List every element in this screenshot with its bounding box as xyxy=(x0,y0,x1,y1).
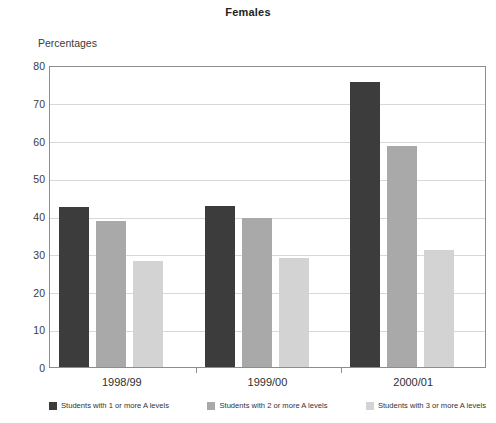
y-axis-tick-labels: 01020304050607080 xyxy=(0,66,45,368)
legend-item[interactable]: Students with 2 or more A levels xyxy=(207,401,327,410)
y-axis-tick-label: 20 xyxy=(3,287,45,299)
legend-label: Students with 3 or more A levels xyxy=(378,401,486,410)
gridline xyxy=(50,142,485,143)
legend-swatch-icon xyxy=(366,402,374,410)
y-axis-tick-label: 40 xyxy=(3,211,45,223)
bar xyxy=(59,207,89,367)
legend-item[interactable]: Students with 3 or more A levels xyxy=(366,401,486,410)
chart-legend: Students with 1 or more A levelsStudents… xyxy=(49,401,486,410)
bar xyxy=(205,206,235,367)
chart-container: Females Percentages 01020304050607080 19… xyxy=(0,0,496,423)
bar xyxy=(279,258,309,367)
x-axis-group-tick xyxy=(341,367,342,373)
x-axis-category-label: 1998/99 xyxy=(49,376,195,388)
gridline xyxy=(50,104,485,105)
bar xyxy=(96,221,126,367)
bar xyxy=(350,82,380,367)
y-axis-tick-label: 70 xyxy=(3,98,45,110)
legend-swatch-icon xyxy=(49,402,57,410)
x-axis-category-label: 2000/01 xyxy=(340,376,486,388)
legend-label: Students with 1 or more A levels xyxy=(61,401,169,410)
y-axis-caption: Percentages xyxy=(38,37,97,49)
gridline xyxy=(50,180,485,181)
x-axis-category-label: 1999/00 xyxy=(195,376,341,388)
plot-area xyxy=(49,66,486,368)
bar xyxy=(424,250,454,367)
y-axis-tick-label: 10 xyxy=(3,324,45,336)
legend-item[interactable]: Students with 1 or more A levels xyxy=(49,401,169,410)
chart-title: Females xyxy=(0,6,496,18)
y-axis-tick-label: 50 xyxy=(3,173,45,185)
bar xyxy=(387,146,417,367)
y-axis-tick-label: 80 xyxy=(3,60,45,72)
bar xyxy=(133,261,163,367)
x-axis-group-tick xyxy=(196,367,197,373)
legend-swatch-icon xyxy=(207,402,215,410)
legend-label: Students with 2 or more A levels xyxy=(219,401,327,410)
bar xyxy=(242,218,272,367)
y-axis-tick-label: 60 xyxy=(3,136,45,148)
y-axis-tick-label: 0 xyxy=(3,362,45,374)
y-axis-tick-label: 30 xyxy=(3,249,45,261)
